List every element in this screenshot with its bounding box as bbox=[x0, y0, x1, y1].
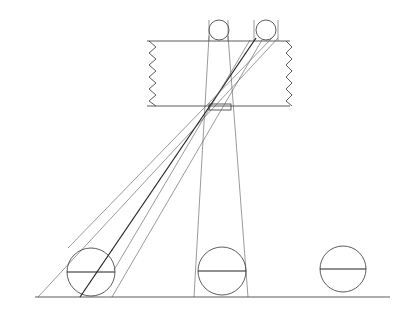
image-circle-left bbox=[209, 20, 229, 40]
ray-left-ball-c bbox=[68, 38, 272, 248]
image-circle-right bbox=[256, 20, 276, 40]
left-zigzag-break bbox=[149, 41, 156, 106]
ray-left-ball-e bbox=[114, 40, 250, 270]
projection-diagram bbox=[0, 0, 414, 311]
ray-left-ball-b bbox=[112, 40, 262, 297]
right-zigzag-break bbox=[286, 41, 292, 106]
diagram-canvas bbox=[0, 0, 414, 311]
ray-left-ball-a bbox=[80, 38, 256, 297]
